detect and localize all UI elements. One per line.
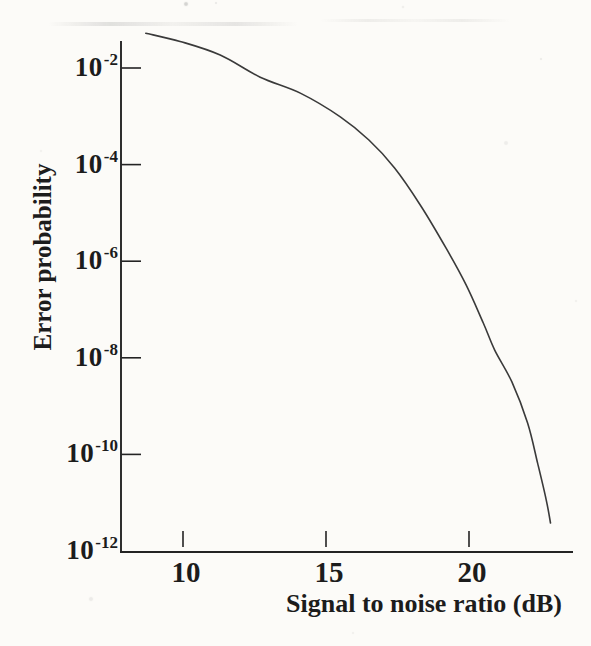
x-tick-label: 10	[172, 558, 201, 587]
x-tick-label: 20	[458, 558, 487, 587]
x-axis-title: Signal to noise ratio (dB)	[286, 589, 562, 619]
scanned-chart-figure: 10-210-410-610-810-1010-12 101520 Error …	[0, 0, 591, 646]
x-tick-label: 15	[315, 558, 344, 587]
y-axis-title: Error probability	[29, 164, 57, 351]
y-tick-label: 10-6	[75, 244, 118, 274]
y-tick-label: 10-12	[66, 534, 118, 564]
y-tick-label: 10-8	[75, 341, 118, 371]
error-probability-curve	[146, 33, 551, 523]
y-tick-label: 10-4	[75, 148, 118, 178]
y-tick-label: 10-10	[66, 437, 118, 467]
y-tick-label: 10-2	[75, 51, 118, 81]
